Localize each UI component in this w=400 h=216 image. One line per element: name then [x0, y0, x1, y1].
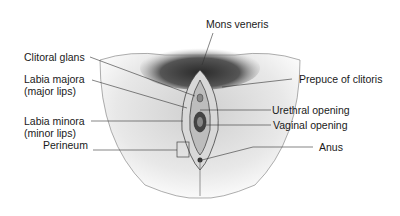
- label-vaginal-opening: Vaginal opening: [273, 119, 348, 131]
- label-anus: Anus: [319, 141, 343, 153]
- label-clitoral-glans: Clitoral glans: [24, 51, 85, 63]
- label-labia-majora-alt: (major lips): [24, 85, 76, 97]
- label-labia-minora-alt: (minor lips): [24, 127, 76, 139]
- label-perineum: Perineum: [43, 139, 88, 151]
- label-labia-majora: Labia majora: [24, 73, 85, 85]
- label-prepuce: Prepuce of clitoris: [299, 73, 382, 85]
- label-urethral-opening: Urethral opening: [272, 104, 350, 116]
- anatomy-diagram: Mons veneris Clitoral glans Labia majora…: [0, 0, 400, 216]
- label-labia-minora: Labia minora: [24, 115, 85, 127]
- label-mons-veneris: Mons veneris: [206, 18, 268, 30]
